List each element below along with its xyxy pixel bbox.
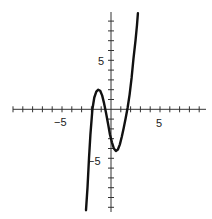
function-plot: −5 5 5 −5 — [0, 0, 212, 219]
y-tick-label-pos5: 5 — [98, 55, 104, 67]
y-axis — [108, 12, 114, 212]
x-tick-label-pos5: 5 — [156, 117, 162, 129]
x-axis — [13, 106, 206, 112]
x-tick-label-neg5: −5 — [54, 116, 67, 128]
